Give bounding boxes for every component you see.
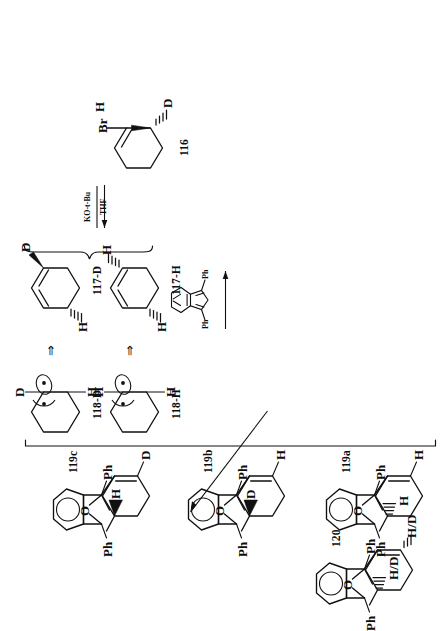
- label-116-d: D: [160, 99, 173, 109]
- bracket-119-group: [25, 440, 435, 446]
- label-119c-h-stereo: H: [108, 489, 121, 499]
- label-117H-h-top: H: [99, 245, 112, 255]
- label-120-ph-left: Ph: [363, 616, 376, 631]
- structure-id-118D: 118-D: [91, 390, 103, 419]
- reagent-base-label: KO-t-Bu: [83, 192, 91, 222]
- label-119a-ph-right: Ph: [373, 465, 386, 480]
- label-119c-d-sp2: D: [138, 451, 151, 461]
- label-reagent-ph-right: Ph: [201, 270, 209, 279]
- label-119b-ph-right: Ph: [235, 465, 248, 480]
- label-117H-h-bottom: H: [154, 322, 167, 332]
- structure-id-117H: 117-H: [170, 265, 182, 295]
- label-119c-ph-right: Ph: [100, 465, 113, 480]
- brace-117-group: [24, 246, 152, 259]
- label-119a-o: O: [350, 506, 363, 516]
- structure-id-119a: 119a: [340, 450, 352, 473]
- arrow-117-to-119: [222, 271, 228, 329]
- label-119b-o: O: [212, 506, 225, 516]
- label-119a-h-stereo: H: [396, 496, 409, 506]
- label-116-h: H: [92, 102, 105, 112]
- reagent-solvent-label: THF: [99, 199, 107, 215]
- structure-118D-drawing: [25, 373, 85, 432]
- structure-id-118H: 118-H: [170, 389, 182, 419]
- label-119c-o: O: [77, 506, 90, 516]
- structure-117H-drawing: [108, 254, 160, 322]
- label-119b-h-sp2: H: [273, 450, 286, 460]
- equivalence-symbol-d: ⇒: [43, 345, 56, 356]
- label-reagent-ph-left: Ph: [201, 320, 209, 329]
- label-120-hd-sp2: H/D: [404, 515, 417, 538]
- label-119b-ph-left: Ph: [235, 542, 248, 557]
- structure-116-drawing: [106, 110, 166, 168]
- label-116-br: Br: [95, 118, 108, 133]
- structure-118H-drawing: [104, 373, 164, 432]
- label-120-ph-right: Ph: [363, 539, 376, 554]
- equivalence-symbol-h: ⇒: [122, 345, 135, 356]
- label-119a-h-sp2: H: [411, 450, 424, 460]
- structure-117D-drawing: [29, 252, 82, 322]
- structure-id-119c: 119c: [67, 451, 79, 473]
- structure-id-117D: 117-D: [91, 266, 103, 295]
- label-120-o: O: [340, 580, 353, 590]
- label-117D-h: H: [75, 322, 88, 332]
- label-117D-d: D: [18, 243, 31, 253]
- structure-id-119b: 119b: [202, 450, 214, 473]
- structure-id-116: 116: [178, 139, 190, 156]
- label-120-hd-stereo: H/D: [386, 557, 399, 580]
- label-118D-d: D: [12, 388, 25, 398]
- label-119c-ph-left: Ph: [100, 542, 113, 557]
- label-119b-d-stereo: D: [243, 490, 256, 500]
- structure-id-120: 120: [330, 529, 342, 547]
